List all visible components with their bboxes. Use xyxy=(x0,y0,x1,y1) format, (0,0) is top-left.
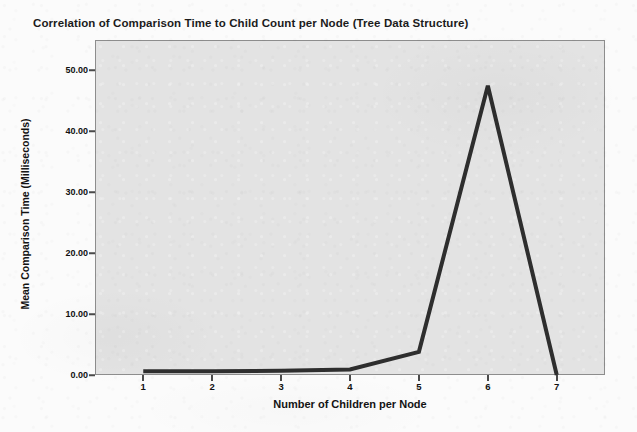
chart-page: Correlation of Comparison Time to Child … xyxy=(0,0,637,432)
series-line-mean-comparison-time xyxy=(143,86,557,375)
y-axis-tick-label: 50.00 xyxy=(42,65,88,75)
y-axis-tick-label: 10.00 xyxy=(42,309,88,319)
x-axis-tick-label: 4 xyxy=(340,381,360,392)
x-axis-tick-label: 3 xyxy=(271,381,291,392)
x-axis-tick-label: 2 xyxy=(202,381,222,392)
y-axis-title: Mean Comparison Time (Milliseconds) xyxy=(19,104,31,324)
x-axis-tick-label: 5 xyxy=(409,381,429,392)
y-axis-tick-label: 0.00 xyxy=(42,370,88,380)
y-axis-tick-label: 20.00 xyxy=(42,248,88,258)
x-axis-title: Number of Children per Node xyxy=(95,398,605,410)
x-axis-tick-label: 1 xyxy=(133,381,153,392)
x-axis-tick-label: 6 xyxy=(478,381,498,392)
x-axis-tick-label: 7 xyxy=(547,381,567,392)
y-axis-tick-label: 40.00 xyxy=(42,126,88,136)
series-line-layer xyxy=(95,40,605,375)
y-axis-tick-label: 30.00 xyxy=(42,187,88,197)
y-axis-tick-labels: 0.0010.0020.0030.0040.0050.00 xyxy=(36,0,88,432)
chart-title: Correlation of Comparison Time to Child … xyxy=(33,17,468,29)
